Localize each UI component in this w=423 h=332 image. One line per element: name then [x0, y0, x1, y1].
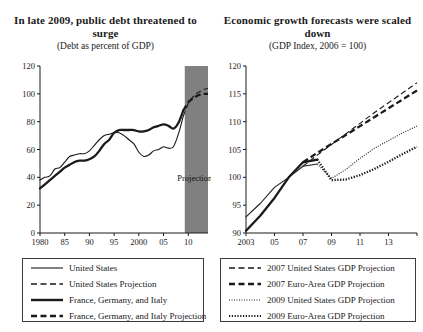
- x-tick-label: 95: [110, 237, 119, 247]
- x-tick-label: 13: [384, 237, 393, 247]
- x-tick-label: 05: [270, 237, 279, 247]
- legend-item-2007-euro-projection: 2007 Euro-Area GDP Projection: [221, 276, 415, 291]
- legend-public-debt: United States United States Projection F…: [22, 258, 204, 322]
- x-tick-label: 90: [85, 237, 94, 247]
- y-tick-label: 20: [27, 200, 36, 210]
- y-tick-label: 105: [228, 145, 241, 155]
- x-tick-label: 10: [184, 237, 193, 247]
- y-tick-label: 120: [22, 61, 35, 71]
- legend-item-2007-us-projection: 2007 United States GDP Projection: [221, 260, 415, 275]
- legend-swatch-solid-thick: [30, 294, 64, 306]
- legend-growth-forecasts: 2007 United States GDP Projection 2007 E…: [220, 258, 416, 322]
- panel-subtitle-growth-forecasts: (GDP Index, 2006 = 100): [216, 41, 419, 52]
- legend-label-2009-euro-projection: 2009 Euro-Area GDP Projection: [267, 311, 384, 321]
- legend-swatch-dashed-thick: [228, 278, 262, 290]
- legend-label-2009-us-projection: 2009 United States GDP Projection: [267, 295, 395, 305]
- series-line: [317, 126, 417, 178]
- x-tick-label: 85: [60, 237, 69, 247]
- chart-public-debt: Projections02040608010012019808590952000…: [0, 56, 211, 248]
- legend-swatch-dashed-thick: [30, 310, 64, 322]
- series-line: [317, 147, 417, 180]
- chart-growth-forecasts: 909510010511011512020030507091113: [212, 56, 423, 248]
- y-tick-label: 95: [233, 200, 242, 210]
- legend-item-united-states: United States: [23, 260, 203, 275]
- legend-swatch-dotted-thin: [228, 294, 262, 306]
- legend-item-2009-euro-projection: 2009 Euro-Area GDP Projection: [221, 308, 415, 323]
- y-tick-label: 100: [228, 172, 241, 182]
- legend-label-united-states-projection: United States Projection: [69, 279, 157, 289]
- y-tick-label: 60: [27, 145, 36, 155]
- legend-label-france-germany-italy-projection: France, Germany, and Italy Projection: [69, 311, 206, 321]
- legend-label-united-states: United States: [69, 263, 117, 273]
- legend-item-france-germany-italy: France, Germany, and Italy: [23, 292, 203, 307]
- series-line: [303, 90, 417, 162]
- series-line: [246, 160, 317, 231]
- legend-item-2009-us-projection: 2009 United States GDP Projection: [221, 292, 415, 307]
- plot-area-growth-forecasts: 909510010511011512020030507091113: [212, 56, 423, 248]
- legend-label-2007-euro-projection: 2007 Euro-Area GDP Projection: [267, 279, 384, 289]
- y-tick-label: 100: [22, 89, 35, 99]
- series-line: [40, 111, 183, 189]
- legend-swatch-dashed-thin: [228, 262, 262, 274]
- legend-item-france-germany-italy-projection: France, Germany, and Italy Projection: [23, 308, 203, 323]
- x-tick-label: 11: [356, 237, 364, 247]
- figure-root: In late 2009, public debt threatened to …: [0, 0, 423, 332]
- x-tick-label: 2003: [238, 237, 255, 247]
- x-tick-label: 2000: [130, 237, 147, 247]
- x-tick-label: 1980: [32, 237, 49, 247]
- y-tick-label: 115: [229, 89, 241, 99]
- legend-label-2007-us-projection: 2007 United States GDP Projection: [267, 263, 395, 273]
- y-tick-label: 80: [27, 117, 36, 127]
- legend-swatch-dotted-thick: [228, 310, 262, 322]
- panel-subtitle-public-debt: (Debt as percent of GDP): [4, 41, 207, 52]
- y-tick-label: 40: [27, 172, 36, 182]
- x-tick-label: 05: [159, 237, 168, 247]
- y-tick-label: 120: [228, 61, 241, 71]
- legend-swatch-dashed-thin: [30, 278, 64, 290]
- panel-growth-forecasts: Economic growth forecasts were scaled do…: [212, 0, 423, 332]
- plot-area-public-debt: Projections02040608010012019808590952000…: [0, 56, 211, 248]
- panel-public-debt: In late 2009, public debt threatened to …: [0, 0, 211, 332]
- x-tick-label: 09: [327, 237, 336, 247]
- projections-annotation: Projections: [177, 173, 211, 183]
- panel-title-public-debt: In late 2009, public debt threatened to …: [4, 14, 207, 40]
- legend-item-united-states-projection: United States Projection: [23, 276, 203, 291]
- x-tick-label: 07: [299, 237, 308, 247]
- series-line: [303, 83, 417, 167]
- series-line: [246, 164, 317, 217]
- panel-title-growth-forecasts: Economic growth forecasts were scaled do…: [216, 14, 419, 40]
- legend-swatch-solid-thin: [30, 262, 64, 274]
- legend-label-france-germany-italy: France, Germany, and Italy: [69, 295, 167, 305]
- y-tick-label: 110: [229, 117, 241, 127]
